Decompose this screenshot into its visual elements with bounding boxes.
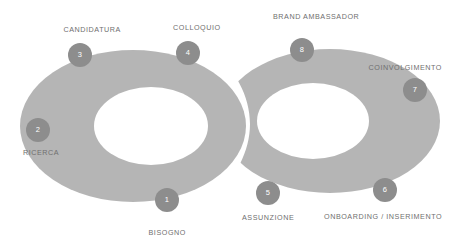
node-circle-7[interactable]: 7 (403, 78, 427, 102)
node-label-2: RICERCA (23, 148, 59, 157)
infinity-loop-diagram: 1BISOGNO2RICERCA3CANDIDATURA4COLLOQUIO5A… (0, 0, 460, 249)
node-circle-6[interactable]: 6 (373, 178, 397, 202)
node-label-3: CANDIDATURA (64, 25, 121, 34)
node-circle-1[interactable]: 1 (155, 188, 179, 212)
node-circle-8[interactable]: 8 (290, 38, 314, 62)
node-label-5: ASSUNZIONE (242, 213, 294, 222)
node-circle-4[interactable]: 4 (176, 41, 200, 65)
node-label-7: COINVOLGIMENTO (369, 63, 442, 72)
node-circle-2[interactable]: 2 (26, 118, 50, 142)
node-circle-3[interactable]: 3 (68, 43, 92, 67)
node-circle-5[interactable]: 5 (256, 181, 280, 205)
node-label-8: BRAND AMBASSADOR (273, 12, 359, 21)
node-label-6: ONBOARDING / INSERIMENTO (324, 212, 442, 221)
node-label-4: COLLOQUIO (173, 23, 221, 32)
node-label-1: BISOGNO (149, 228, 186, 237)
